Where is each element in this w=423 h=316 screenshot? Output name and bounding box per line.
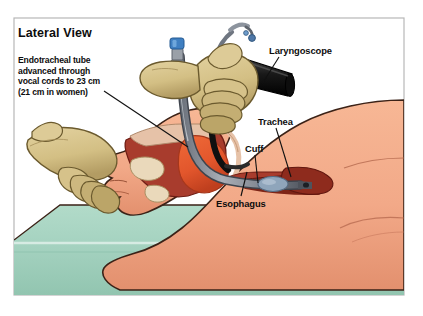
label-esophagus: Esophagus bbox=[216, 199, 266, 210]
cuff-icon bbox=[258, 177, 288, 192]
label-cuff: Cuff bbox=[245, 144, 263, 155]
label-laryngoscope: Laryngoscope bbox=[269, 46, 332, 57]
page-title: Lateral View bbox=[18, 26, 92, 40]
label-trachea: Trachea bbox=[258, 117, 293, 128]
caption-endotracheal-tube-depth: Endotracheal tube advanced through vocal… bbox=[18, 55, 100, 98]
medical-illustration-lateral-view: Lateral View Endotracheal tube advanced … bbox=[0, 0, 423, 316]
intubation-diagram-canvas bbox=[0, 0, 423, 316]
